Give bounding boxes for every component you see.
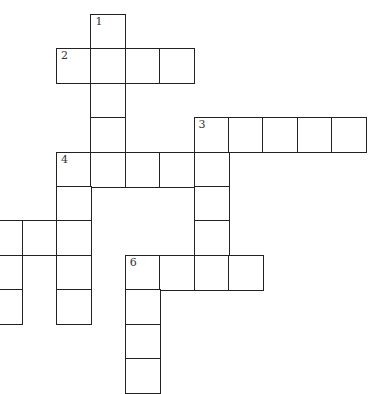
crossword-cell[interactable]: 6: [125, 255, 161, 291]
crossword-cell[interactable]: [159, 255, 195, 291]
crossword-cell[interactable]: [331, 117, 367, 153]
clue-number: 2: [61, 50, 68, 62]
crossword-cell[interactable]: 2: [56, 48, 92, 84]
crossword-cell[interactable]: [125, 48, 161, 84]
crossword-cell[interactable]: 3: [194, 117, 230, 153]
clue-number: 6: [130, 257, 137, 269]
crossword-cell[interactable]: [228, 117, 264, 153]
clue-number: 3: [199, 119, 206, 131]
crossword-cell[interactable]: [262, 117, 298, 153]
crossword-cell[interactable]: [194, 152, 230, 188]
crossword-cell[interactable]: [56, 186, 92, 222]
crossword-cell[interactable]: [90, 83, 126, 119]
crossword-cell[interactable]: [90, 152, 126, 188]
crossword-cell[interactable]: [56, 289, 92, 325]
crossword-cell[interactable]: [159, 48, 195, 84]
clue-number: 1: [95, 16, 102, 28]
crossword-cell[interactable]: 4: [56, 152, 92, 188]
crossword-cell[interactable]: [56, 220, 92, 256]
crossword-cell[interactable]: [0, 220, 23, 256]
crossword-cell[interactable]: 1: [90, 14, 126, 50]
crossword-cell[interactable]: [125, 324, 161, 360]
crossword-cell[interactable]: [125, 358, 161, 394]
crossword-cell[interactable]: [194, 255, 230, 291]
crossword-cell[interactable]: [90, 117, 126, 153]
crossword-cell[interactable]: [228, 255, 264, 291]
crossword-cell[interactable]: [125, 289, 161, 325]
crossword-cell[interactable]: [56, 255, 92, 291]
crossword-cell[interactable]: [22, 220, 58, 256]
crossword-cell[interactable]: [90, 48, 126, 84]
crossword-cell[interactable]: [125, 152, 161, 188]
crossword-cell[interactable]: [297, 117, 333, 153]
clue-number: 4: [61, 154, 68, 166]
crossword-cell[interactable]: [194, 220, 230, 256]
crossword-cell[interactable]: [159, 152, 195, 188]
crossword-cell[interactable]: [194, 186, 230, 222]
crossword-cell[interactable]: [0, 255, 23, 291]
crossword-cell[interactable]: [0, 289, 23, 325]
